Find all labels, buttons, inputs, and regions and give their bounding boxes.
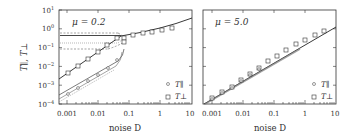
xtick-0.1: 0.1 [268,110,279,118]
right-panel: 0.001 0.01 0.1 1 10 noise D μ = 5.0 [202,10,339,133]
legend-circle-icon [167,83,170,86]
figure: 101 100 10−1 10−2 10−3 10−4 T∥, T⊥ 0.001… [0,0,355,138]
right-tpar-curve [205,49,300,104]
xtick-10: 10 [331,110,340,118]
xtick-0.01: 0.01 [90,110,106,118]
xtick-0.01: 0.01 [235,110,251,118]
ytick-1e0: 100 [42,23,54,33]
xtick-0.001: 0.001 [202,110,222,118]
right-legend: T∥ T⊥ [312,80,333,101]
legend-square-icon [166,95,170,99]
left-x-tick-labels: 0.001 0.01 0.1 1 10 [57,110,194,118]
left-y-tick-labels: 101 100 10−1 10−2 10−3 10−4 [38,5,54,109]
legend-square-icon [312,95,316,99]
right-panel-title: μ = 5.0 [215,17,249,27]
left-panel: 101 100 10−1 10−2 10−3 10−4 T∥, T⊥ 0.001… [19,5,194,134]
ytick-1e-4: 10−4 [38,99,54,109]
xtick-1: 1 [303,110,307,118]
left-legend: T∥ T⊥ [166,80,187,101]
right-x-tick-labels: 0.001 0.01 0.1 1 10 [202,110,339,118]
xtick-0.001: 0.001 [57,110,77,118]
ytick-1e-3: 10−3 [38,80,54,90]
xtick-1: 1 [158,110,162,118]
xtick-10: 10 [186,110,195,118]
legend-tperp-label: T⊥ [321,92,333,101]
legend-tpar-label: T∥ [175,80,183,89]
left-tpar-curve-2 [59,52,122,99]
left-x-axis-label: noise D [109,123,141,133]
legend-tperp-label: T⊥ [175,92,187,101]
ytick-1e-2: 10−2 [38,61,54,71]
left-panel-title: μ = 0.2 [72,17,106,27]
legend-tpar-label: T∥ [321,80,329,89]
left-tperp-markers [66,26,174,75]
ytick-1e1: 101 [42,5,54,15]
right-tperp-markers [210,29,326,100]
ytick-1e-1: 10−1 [38,42,54,52]
xtick-0.1: 0.1 [123,110,134,118]
y-axis-label: T∥, T⊥ [19,43,29,72]
legend-circle-icon [313,83,316,86]
right-x-axis-label: noise D [254,123,286,133]
